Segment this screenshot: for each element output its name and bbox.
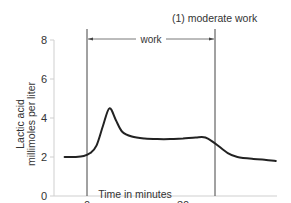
arrowhead-left-icon	[88, 38, 93, 41]
y-tick-label: 4	[41, 112, 47, 124]
x-tick-label: 30	[177, 199, 189, 203]
chart-title: (1) moderate work	[172, 12, 258, 24]
y-tick-label: 2	[41, 151, 47, 163]
y-tick-label: 0	[41, 190, 47, 202]
y-ticks: 02468	[41, 34, 54, 202]
work-annotation: work	[139, 34, 162, 45]
chart: 02468 030 work (1) moderate work Time in…	[0, 0, 291, 203]
lactic-acid-curve	[65, 108, 276, 161]
y-tick-label: 8	[41, 34, 47, 46]
y-axis-label-line2: millimoles per liter	[25, 81, 37, 166]
x-axis-label: Time in minutes	[98, 188, 172, 200]
arrowhead-right-icon	[209, 38, 214, 41]
x-tick-label: 0	[84, 199, 90, 203]
y-tick-label: 6	[41, 73, 47, 85]
